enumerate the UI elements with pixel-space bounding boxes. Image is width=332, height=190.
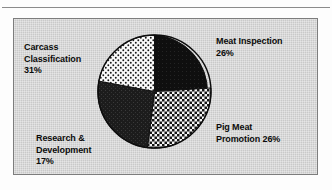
pie-label-meat-inspection: Meat Inspection 26% — [216, 36, 316, 59]
pie-label-pig-meat-promotion: Pig Meat Promotion 26% — [216, 122, 316, 145]
pie-slice-pig-meat-promotion — [147, 88, 211, 148]
horizontal-rule — [2, 7, 330, 8]
chart-frame: Carcass Classification 31% Meat Inspecti… — [13, 18, 318, 175]
figure-page: Carcass Classification 31% Meat Inspecti… — [0, 0, 332, 190]
pie-label-carcass-classification: Carcass Classification 31% — [24, 42, 116, 77]
pie-label-research-development: Research & Development 17% — [36, 133, 131, 168]
